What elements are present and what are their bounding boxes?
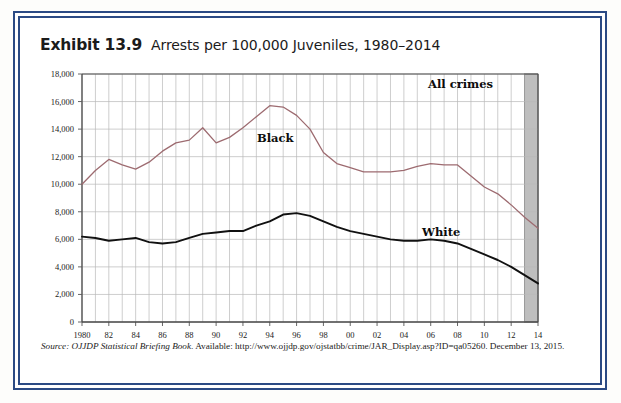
- x-axis-tick-label: 84: [131, 330, 140, 340]
- y-axis-tick-label: 2,000: [55, 289, 74, 299]
- y-axis-tick-label: 12,000: [51, 152, 74, 162]
- x-axis-tick-label: 06: [426, 330, 435, 340]
- annotation-all-crimes: All crimes: [427, 77, 493, 91]
- y-axis-tick-label: 4,000: [55, 262, 74, 272]
- x-axis-tick-label: 98: [319, 330, 328, 340]
- y-axis-tick-label: 18,000: [51, 69, 74, 79]
- x-axis-tick-label: 96: [292, 330, 301, 340]
- y-axis-tick-label: 10,000: [51, 179, 74, 189]
- page-background: Exhibit 13.9Arrests per 100,000 Juvenile…: [0, 0, 621, 403]
- source-label: Source:: [41, 341, 69, 351]
- x-axis-tick-label: 08: [453, 330, 462, 340]
- annotation-black: Black: [257, 131, 295, 145]
- source-available-label: . Available:: [191, 341, 235, 351]
- x-axis-tick-label: 88: [185, 330, 194, 340]
- x-axis-tick-label: 14: [534, 330, 543, 340]
- x-axis-tick-label: 10: [480, 330, 489, 340]
- annotation-white: White: [421, 225, 460, 239]
- source-url: http://www.ojjdp.gov/ojstatbb/crime/JAR_…: [235, 341, 488, 351]
- x-axis-tick-label: 90: [212, 330, 221, 340]
- source-publication: OJJDP Statistical Briefing Book: [72, 341, 192, 351]
- y-axis-tick-label: 16,000: [51, 97, 74, 107]
- x-axis-tick-label: 02: [373, 330, 382, 340]
- x-axis-tick-label: 86: [158, 330, 167, 340]
- y-axis-tick-label: 14,000: [51, 124, 74, 134]
- x-axis-tick-label: 94: [266, 330, 275, 340]
- chart-container: 02,0004,0006,0008,00010,00012,00014,0001…: [22, 20, 598, 381]
- x-axis-tick-label: 82: [105, 330, 114, 340]
- line-chart: 02,0004,0006,0008,00010,00012,00014,0001…: [22, 20, 598, 381]
- y-axis-tick-label: 8,000: [55, 207, 74, 217]
- y-axis-tick-label: 6,000: [55, 234, 74, 244]
- source-date: December 13, 2015.: [490, 341, 565, 351]
- x-axis-tick-label: 04: [400, 330, 409, 340]
- y-axis-tick-label: 0: [70, 317, 74, 327]
- exhibit-content: Exhibit 13.9Arrests per 100,000 Juvenile…: [22, 20, 598, 381]
- x-axis-tick-label: 92: [239, 330, 248, 340]
- shaded-band-2013-2014: [525, 74, 538, 322]
- source-note: Source: OJJDP Statistical Briefing Book.…: [41, 340, 581, 354]
- x-axis-tick-label: 00: [346, 330, 355, 340]
- x-axis-tick-label: 1980: [74, 330, 91, 340]
- x-axis-tick-label: 12: [507, 330, 516, 340]
